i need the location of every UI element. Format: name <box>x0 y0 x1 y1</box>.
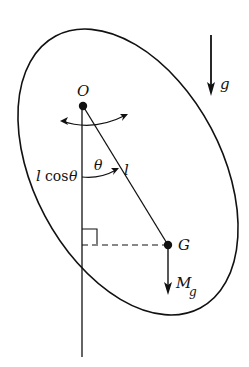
label-gravity-g: g <box>220 75 230 93</box>
label-projection-l: l <box>36 167 41 185</box>
pivot-point-o <box>79 102 87 110</box>
right-angle-marker <box>82 229 97 244</box>
label-pivot-o: O <box>77 82 89 100</box>
pendulum-diagram: O G g l θ l cos θ M g <box>0 0 249 367</box>
oscillation-arrowhead-left-icon <box>60 117 68 125</box>
diagram-svg: O G g l θ l cos θ M g <box>0 0 249 367</box>
label-weight-g: g <box>189 285 197 299</box>
label-angle-theta: θ <box>94 157 103 173</box>
label-projection-theta: θ <box>69 168 78 184</box>
label-length-l: l <box>124 161 129 179</box>
label-center-g: G <box>178 236 190 254</box>
center-of-mass-g <box>164 241 172 249</box>
label-projection-cos: cos <box>45 168 68 184</box>
